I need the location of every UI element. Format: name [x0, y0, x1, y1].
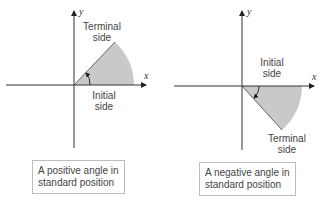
- positive-y-axis-label: y: [79, 6, 83, 17]
- positive-angle-figure: [6, 11, 146, 148]
- negative-angle-figure: [174, 11, 314, 150]
- positive-initial-side-label: Initial side: [84, 90, 124, 112]
- negative-angle-wedge: [242, 86, 302, 130]
- positive-x-axis-label: x: [144, 70, 148, 81]
- positive-angle-caption: A positive angle in standard position: [32, 160, 125, 194]
- negative-initial-side-label: Initial side: [254, 57, 290, 79]
- negative-terminal-side-label: Terminal side: [264, 133, 310, 155]
- positive-angle-wedge: [74, 42, 134, 85]
- negative-y-axis-label: y: [247, 6, 251, 17]
- negative-x-axis-label: x: [312, 71, 316, 82]
- positive-terminal-side-label: Terminal side: [80, 21, 124, 43]
- negative-angle-caption: A negative angle in standard position: [199, 162, 296, 196]
